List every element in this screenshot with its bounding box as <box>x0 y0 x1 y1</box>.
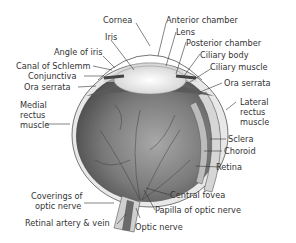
label-ora-serrata-left: Ora serrata <box>24 82 71 92</box>
label-coverings-line1: Coverings of <box>31 191 82 201</box>
label-medial-rectus-line2: rectus <box>20 110 45 120</box>
label-sclera: Sclera <box>228 134 253 144</box>
label-choroid: Choroid <box>224 146 256 156</box>
label-lateral-rectus-line2: rectus <box>240 107 265 117</box>
label-medial-rectus-line3: muscle <box>20 120 49 130</box>
label-anterior-chamber: Anterior chamber <box>166 15 238 25</box>
label-angle-of-iris: Angle of iris <box>54 47 103 57</box>
label-lens: Lens <box>176 27 195 37</box>
label-posterior-chamber: Posterior chamber <box>186 38 261 48</box>
label-ciliary-muscle: Ciliary muscle <box>210 62 268 72</box>
eye-anatomy-diagram: Cornea Iris Angle of iris Canal of Schle… <box>0 0 296 243</box>
label-papilla-of-optic-nerve: Papilla of optic nerve <box>155 205 241 215</box>
label-canal-of-schlemm: Canal of Schlemm <box>16 61 90 71</box>
label-medial-rectus-line1: Medial <box>20 100 47 110</box>
label-iris: Iris <box>105 32 117 42</box>
label-retina: Retina <box>216 162 242 172</box>
label-lateral-rectus-line3: muscle <box>240 117 269 127</box>
label-conjunctiva: Conjunctiva <box>28 71 76 81</box>
label-ora-serrata-right: Ora serrata <box>224 78 271 88</box>
label-ciliary-body: Ciliary body <box>200 50 249 60</box>
label-coverings-line2: optic nerve <box>35 201 81 211</box>
label-lateral-rectus-line1: Lateral <box>240 97 268 107</box>
label-retinal-artery-vein: Retinal artery & vein <box>25 218 110 228</box>
label-cornea: Cornea <box>103 15 132 25</box>
label-optic-nerve: Optic nerve <box>135 222 183 232</box>
label-central-fovea: Central fovea <box>170 190 225 200</box>
